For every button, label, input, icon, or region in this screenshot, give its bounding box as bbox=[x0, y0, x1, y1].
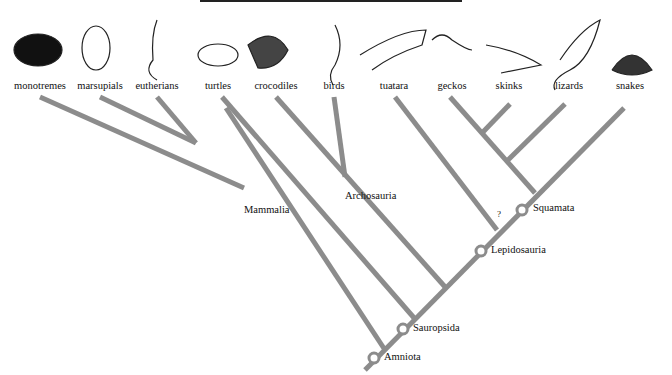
ferret-icon bbox=[149, 20, 157, 80]
branch-monotremes bbox=[40, 97, 244, 188]
branch-marsupials bbox=[100, 97, 196, 143]
clade-amniota: Amniota bbox=[384, 351, 421, 362]
cladogram-branches bbox=[0, 0, 672, 375]
clade-lepidosauria: Lepidosauria bbox=[491, 244, 546, 255]
node-amniota bbox=[369, 353, 379, 363]
uncertain-marker: ? bbox=[497, 209, 501, 219]
clade-squamata: Squamata bbox=[533, 202, 574, 213]
turtle-icon bbox=[198, 44, 238, 66]
cobra-icon bbox=[612, 55, 652, 75]
echidna-icon bbox=[14, 34, 62, 66]
branch-lizards bbox=[508, 104, 565, 160]
branch-tuatara bbox=[395, 97, 497, 230]
skink-icon bbox=[486, 45, 541, 73]
node-sauropsida bbox=[398, 324, 408, 334]
koala-icon bbox=[82, 26, 110, 70]
gecko-icon bbox=[432, 35, 472, 50]
node-squamata bbox=[517, 205, 527, 215]
taxon-snakes: snakes bbox=[590, 80, 670, 91]
crocodile-icon bbox=[248, 36, 288, 68]
clade-sauropsida: Sauropsida bbox=[413, 322, 460, 333]
branch-mammals bbox=[226, 108, 385, 350]
branch-skinks bbox=[483, 104, 510, 132]
bird-icon bbox=[330, 25, 340, 85]
node-lepidosauria bbox=[476, 246, 486, 256]
clade-archosauria: Archosauria bbox=[345, 190, 396, 201]
clade-mammalia: Mammalia bbox=[244, 204, 290, 215]
tuatara-icon bbox=[360, 30, 426, 70]
